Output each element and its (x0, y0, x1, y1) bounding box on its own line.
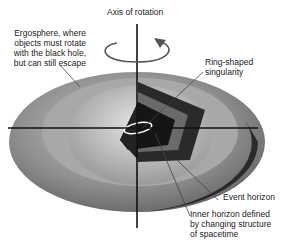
ergosphere-label: Ergosphere, where objects must rotate wi… (6, 28, 86, 68)
singularity-label: Ring-shaped singularity (205, 57, 253, 77)
event-horizon-label: Event horizon (223, 192, 275, 202)
inner-horizon-label: Inner horizon defined by changing struct… (190, 209, 271, 239)
axis-of-rotation-label: Axis of rotation (107, 7, 163, 17)
